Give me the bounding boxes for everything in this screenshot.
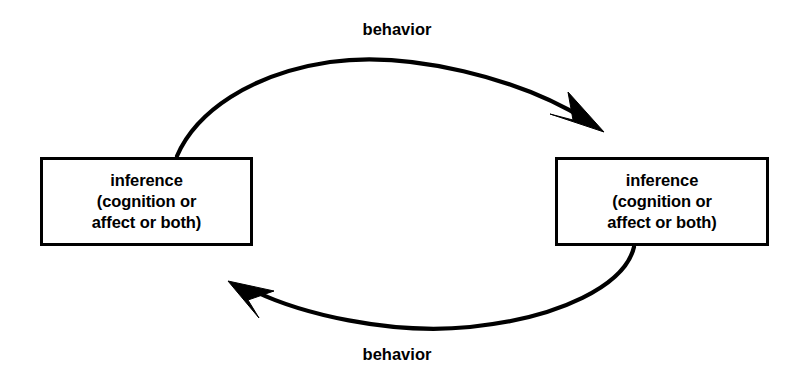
- node-left-line-1: inference: [110, 170, 182, 191]
- edge-label-behavior-top: behavior: [0, 20, 794, 39]
- node-right-line-1: inference: [626, 170, 698, 191]
- behavior-top-arrow-curve: [177, 60, 588, 156]
- behavior-bottom-arrow: [228, 247, 634, 329]
- node-left-line-2: (cognition or: [97, 191, 197, 212]
- node-inference-right: inference (cognition or affect or both): [555, 157, 769, 246]
- node-inference-left: inference (cognition or affect or both): [40, 157, 253, 246]
- node-left-line-3: affect or both): [92, 212, 201, 233]
- behavior-bottom-arrowhead: [228, 281, 274, 318]
- edge-label-behavior-bottom: behavior: [0, 345, 794, 364]
- diagram-canvas: inference (cognition or affect or both) …: [0, 0, 794, 387]
- behavior-top-arrow: [177, 60, 604, 156]
- behavior-top-arrowhead: [550, 92, 604, 132]
- behavior-bottom-arrow-curve: [250, 247, 634, 329]
- node-right-line-2: (cognition or: [612, 191, 712, 212]
- node-right-line-3: affect or both): [607, 212, 716, 233]
